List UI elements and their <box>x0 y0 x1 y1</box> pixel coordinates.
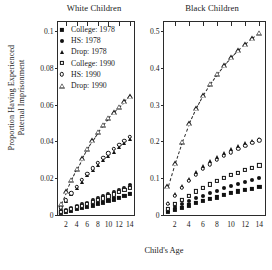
panel-white-children: White Children 00.020.040.060.080.124681… <box>0 0 140 270</box>
y-tick-mark <box>161 68 165 69</box>
x-axis-title: Child's Age <box>0 246 272 255</box>
y-tick-mark <box>55 178 59 179</box>
x-tick-label: 6 <box>85 215 89 229</box>
x-tick-label: 4 <box>187 215 191 229</box>
x-tick-mark <box>203 22 204 26</box>
legend-item: Drop: 1990 <box>62 80 115 91</box>
y-tick-mark <box>55 105 59 106</box>
legend-item-label: HS: 1990 <box>71 70 101 79</box>
x-tick-mark <box>245 22 246 26</box>
legend-item-label: HS: 1978 <box>71 36 101 45</box>
legend-item: College: 1978 <box>62 24 115 35</box>
x-tick-mark <box>231 22 232 26</box>
panel-black-children: Black Children 00.10.20.30.40.5246810121… <box>140 0 272 270</box>
x-tick-label: 14 <box>256 215 264 229</box>
x-tick-label: 2 <box>173 215 177 229</box>
y-tick-mark <box>161 105 165 106</box>
legend-item-label: Drop: 1990 <box>71 81 107 90</box>
y-tick-mark <box>55 215 59 216</box>
legend-item: HS: 1978 <box>62 35 115 46</box>
x-tick-mark <box>259 22 260 26</box>
x-tick-label: 8 <box>215 215 219 229</box>
legend-item-label: College: 1990 <box>71 59 115 68</box>
y-tick-mark <box>161 31 165 32</box>
legend-item: HS: 1990 <box>62 69 115 80</box>
legend-item-label: College: 1978 <box>71 25 115 34</box>
y-tick-mark <box>161 178 165 179</box>
x-tick-label: 10 <box>105 215 113 229</box>
figure: Proportion Having Experienced Paternal I… <box>0 0 272 270</box>
x-tick-label: 8 <box>96 215 100 229</box>
legend-item: College: 1990 <box>62 58 115 69</box>
plot-area-black: 00.10.20.30.40.52468101214 <box>164 22 265 215</box>
x-tick-label: 6 <box>201 215 205 229</box>
x-tick-label: 12 <box>115 215 123 229</box>
x-tick-label: 10 <box>227 215 235 229</box>
x-tick-label: 12 <box>241 215 249 229</box>
y-tick-mark <box>55 68 59 69</box>
x-tick-mark <box>130 22 131 26</box>
y-tick-mark <box>55 31 59 32</box>
x-tick-mark <box>119 22 120 26</box>
plot-frame-black: 00.10.20.30.40.52468101214 <box>163 21 266 216</box>
legend-item: Drop: 1978 <box>62 46 115 57</box>
panel-title-black: Black Children <box>140 3 272 13</box>
x-tick-label: 14 <box>126 215 134 229</box>
legend: College: 1978HS: 1978Drop: 1978College: … <box>62 24 115 91</box>
y-tick-mark <box>55 141 59 142</box>
x-tick-mark <box>189 22 190 26</box>
x-tick-label: 4 <box>75 215 79 229</box>
y-tick-mark <box>161 141 165 142</box>
x-tick-mark <box>175 22 176 26</box>
legend-item-label: Drop: 1978 <box>71 47 107 56</box>
x-tick-mark <box>217 22 218 26</box>
x-tick-label: 2 <box>64 215 68 229</box>
y-tick-mark <box>161 215 165 216</box>
